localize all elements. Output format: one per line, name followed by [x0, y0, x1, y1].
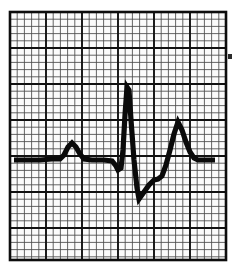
ecg-figure [0, 0, 238, 273]
ecg-chart-svg [0, 0, 238, 273]
right-edge-tick [228, 54, 232, 59]
edge-marks [228, 54, 232, 59]
